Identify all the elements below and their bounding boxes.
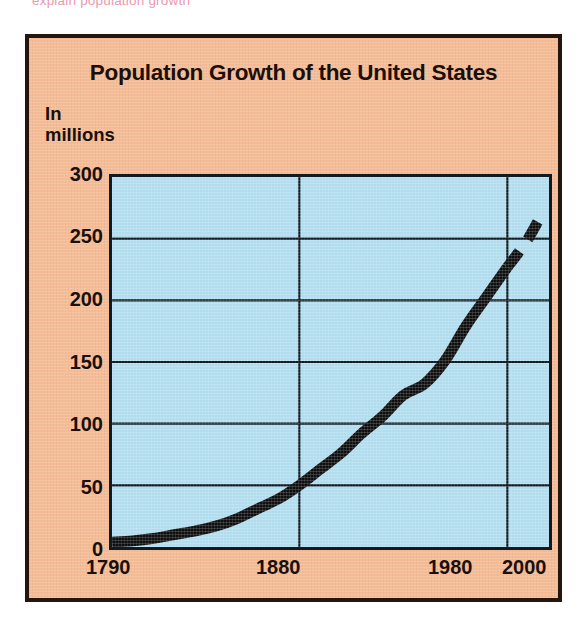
top-caption-text: explain population growth [32, 0, 452, 9]
y-tick-200: 200 [39, 288, 103, 311]
x-tick-1980: 1980 [428, 556, 473, 579]
data-series-layer [112, 220, 539, 542]
y-tick-50: 50 [39, 476, 103, 499]
chart-plot-svg [112, 177, 549, 547]
y-axis-label-line1: In [45, 104, 115, 125]
y-axis-label-line2: millions [45, 125, 115, 146]
x-tick-1880: 1880 [256, 556, 301, 579]
y-axis-label: In millions [45, 104, 115, 145]
y-tick-300: 300 [39, 163, 103, 186]
chart-title: Population Growth of the United States [29, 60, 558, 86]
population-curve-projected [507, 220, 538, 267]
y-tick-150: 150 [39, 351, 103, 374]
y-tick-100: 100 [39, 413, 103, 436]
y-tick-250: 250 [39, 225, 103, 248]
x-tick-1790: 1790 [86, 556, 131, 579]
plot-area [109, 174, 552, 550]
population-curve-actual [112, 267, 507, 542]
x-tick-2000: 2000 [502, 556, 547, 579]
chart-figure-frame: Population Growth of the United States I… [25, 34, 562, 602]
gridlines [112, 177, 549, 547]
